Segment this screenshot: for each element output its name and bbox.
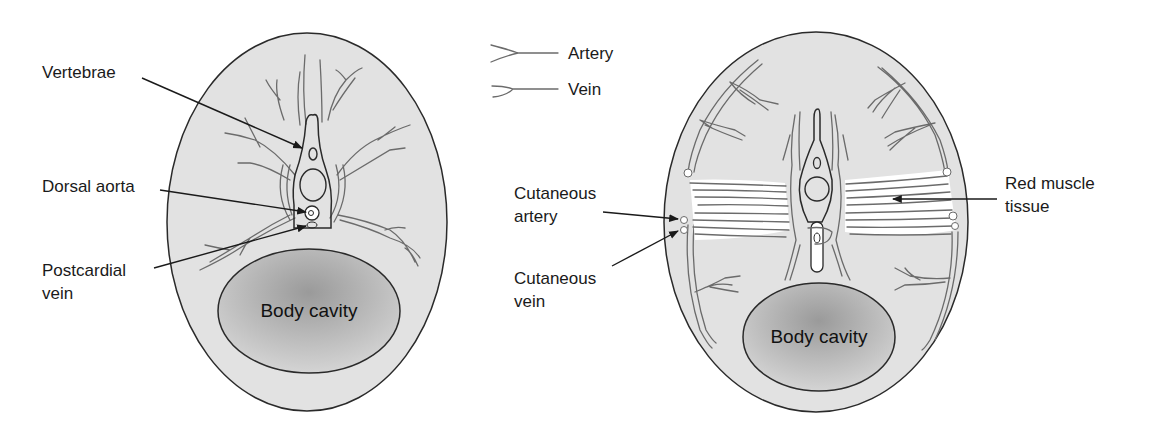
cutaneous-vein-vessel <box>681 227 688 234</box>
cutaneous-artery-label-line1: Cutaneous <box>514 184 596 203</box>
dorsal-aorta-label: Dorsal aorta <box>42 177 135 196</box>
cutaneous-vein-label-line1: Cutaneous <box>514 269 596 288</box>
left-cross-section: Body cavity Vertebrae Dorsal aorta Postc… <box>42 33 447 411</box>
legend-item-vein: Vein <box>492 80 601 99</box>
cutaneous-artery-vessel <box>681 217 688 224</box>
vein-line-icon <box>492 86 558 97</box>
artery-line-icon <box>491 45 558 62</box>
red-muscle-label-line2: tissue <box>1005 197 1049 216</box>
red-muscle-label-line1: Red muscle <box>1005 174 1095 193</box>
right-cross-section: Body cavity Cutaneous artery Cutaneous v… <box>514 32 1095 412</box>
right-body-cavity-label: Body cavity <box>770 326 868 347</box>
left-body-cavity-label: Body cavity <box>260 300 358 321</box>
legend-artery-label: Artery <box>568 44 614 63</box>
left-dorsal-aorta-vessel <box>305 206 319 220</box>
cutaneous-vein-label-line2: vein <box>514 292 545 311</box>
vertebrae-label: Vertebrae <box>42 63 116 82</box>
legend-vein-label: Vein <box>568 80 601 99</box>
cutaneous-artery-label-line2: artery <box>514 207 558 226</box>
legend-item-artery: Artery <box>491 44 614 63</box>
postcardial-vein-label-line2: vein <box>42 284 73 303</box>
postcardial-vein-label-line1: Postcardial <box>42 261 126 280</box>
legend: Artery Vein <box>491 44 614 99</box>
fish-circulation-cross-sections: Artery Vein Body cavity <box>0 0 1153 441</box>
